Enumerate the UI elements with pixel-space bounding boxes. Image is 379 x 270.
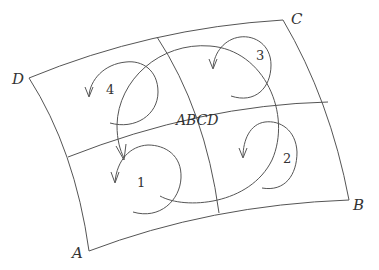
edge-AD — [29, 78, 89, 251]
cell-label-3: 3 — [256, 48, 264, 63]
corner-label-D: D — [11, 70, 24, 88]
cell-label-4: 4 — [106, 82, 114, 97]
corner-label-A: A — [70, 244, 83, 262]
cell-label-2: 2 — [283, 151, 291, 166]
edge-BA — [89, 200, 349, 251]
cell-label-1: 1 — [137, 175, 145, 190]
curved-quadrilateral-diagram: A B C D 1 2 3 4 ABCD — [0, 0, 379, 270]
edge-DC — [29, 20, 283, 78]
center-label-abcd: ABCD — [174, 112, 219, 128]
corner-label-B: B — [352, 196, 364, 214]
corner-label-C: C — [291, 10, 303, 28]
circulation-arrow-4 — [89, 62, 158, 125]
grid-line-horizontal — [68, 102, 328, 157]
circulation-arrow-3 — [213, 37, 271, 98]
